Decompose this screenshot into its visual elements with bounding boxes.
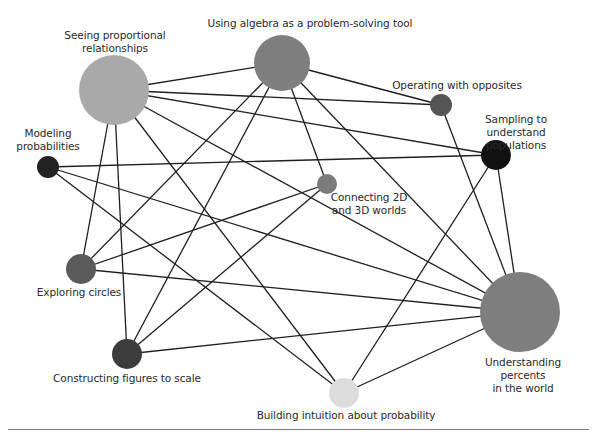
edge-ua-cf xyxy=(127,63,282,354)
node-ec xyxy=(66,254,96,284)
node-mp xyxy=(37,156,59,178)
node-label-c2: Connecting 2D and 3D worlds xyxy=(331,191,407,217)
node-ua xyxy=(254,35,310,91)
edge-c2-cf xyxy=(127,184,327,354)
edge-c2-ec xyxy=(81,184,327,269)
node-label-sp: Seeing proportional relationships xyxy=(64,29,165,55)
node-label-cf: Constructing figures to scale xyxy=(53,372,201,385)
bottom-divider xyxy=(8,429,589,430)
node-label-mp: Modeling probabilities xyxy=(16,127,79,153)
node-oo xyxy=(430,94,452,116)
node-label-bi: Building intuition about probability xyxy=(257,409,436,422)
node-label-ec: Exploring circles xyxy=(37,286,121,299)
node-cf xyxy=(112,339,142,369)
node-label-sa: Sampling to understand populations xyxy=(476,113,557,152)
node-label-ua: Using algebra as a problem-solving tool xyxy=(208,17,413,30)
node-up xyxy=(480,272,560,352)
node-label-up: Understanding percents in the world xyxy=(485,356,561,395)
node-sp xyxy=(79,55,149,125)
edge-cf-up xyxy=(127,312,520,354)
edge-sa-mp xyxy=(48,155,496,167)
node-label-oo: Operating with opposites xyxy=(392,79,522,92)
node-bi xyxy=(329,378,359,408)
